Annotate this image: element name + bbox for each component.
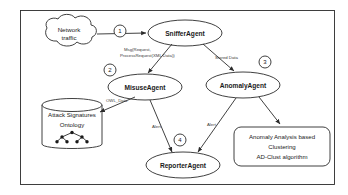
edge-label-stored-data: Stored Data	[215, 55, 239, 60]
misuse-agent-label: MisuseAgent	[124, 84, 166, 92]
edge-label-msg-request-line1: Msg(Request,	[124, 47, 151, 52]
edge-label-alert-right: Alert	[207, 122, 217, 127]
edge-label-owl-data: OWL_Data	[106, 98, 128, 103]
node-attack-signatures-ontology: Attack Signatures Ontology	[42, 99, 102, 149]
step-marker-3: 3	[259, 56, 271, 68]
step-marker-1: 1	[114, 25, 126, 37]
node-network-traffic: Network traffic	[46, 14, 97, 46]
network-traffic-label-line2: traffic	[61, 34, 76, 41]
step-marker-2: 2	[104, 64, 116, 76]
reporter-agent-label: ReporterAgent	[160, 162, 207, 170]
node-misuse-agent: MisuseAgent	[108, 74, 182, 100]
anomaly-agent-label: AnomalyAgent	[220, 82, 267, 90]
analysis-label-line3: AD-Clust algorithm	[256, 153, 307, 160]
node-anomaly-agent: AnomalyAgent	[206, 72, 280, 98]
edge-label-msg-request-line2: ProcessRequest(XML Data))	[120, 53, 175, 58]
ontology-label-line1: Attack Signatures	[48, 111, 96, 118]
step-marker-4: 4	[174, 134, 186, 146]
diagram-canvas: Network traffic SnifferAgent MisuseAgent…	[0, 0, 348, 195]
node-sniffer-agent: SnifferAgent	[148, 20, 222, 46]
analysis-label-line1: Anomaly Analysis based	[249, 133, 315, 140]
sniffer-agent-label: SnifferAgent	[165, 30, 205, 38]
node-anomaly-analysis-box: Anomaly Analysis based Clustering AD-Clu…	[234, 127, 330, 166]
node-reporter-agent: ReporterAgent	[146, 152, 220, 178]
ontology-label-line2: Ontology	[60, 121, 85, 128]
edge-label-alert-left: Alert	[152, 124, 162, 129]
network-traffic-label-line1: Network	[58, 26, 82, 33]
analysis-label-line2: Clustering	[268, 143, 295, 150]
architecture-diagram: Network traffic SnifferAgent MisuseAgent…	[0, 0, 348, 195]
